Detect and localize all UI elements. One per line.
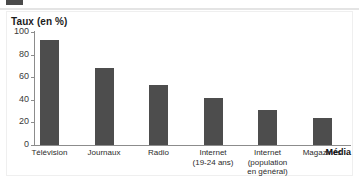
x-axis-category-label: Journaux (74, 148, 134, 158)
y-axis-tick-label: 80 (5, 50, 29, 59)
plot-area: 020406080100TélévisionJournauxRadioInter… (0, 0, 359, 179)
y-axis-line (34, 31, 35, 146)
x-axis-category-label: Internet (population en général) (238, 148, 298, 177)
y-axis-tick-label: 100 (5, 27, 29, 36)
y-axis-tick-mark (31, 55, 34, 56)
x-axis-category-label: Internet (19-24 ans) (183, 148, 243, 167)
y-axis-tick-mark (31, 77, 34, 78)
x-axis-line (34, 145, 351, 146)
x-axis-category-label: Télévision (20, 148, 80, 158)
y-axis-tick-mark (31, 32, 34, 33)
x-axis-category-label: Radio (129, 148, 189, 158)
bar (313, 118, 332, 145)
bar (149, 85, 168, 145)
bar (204, 98, 223, 145)
y-axis-tick-mark (31, 100, 34, 101)
y-axis-tick-label: 40 (5, 95, 29, 104)
bar (95, 68, 114, 145)
bar (258, 110, 277, 145)
y-axis-tick-mark (31, 145, 34, 146)
y-axis-tick-label: 60 (5, 72, 29, 81)
x-axis-title: Média (325, 147, 351, 157)
chart-screenshot: Taux (en %) 020406080100TélévisionJourna… (0, 0, 359, 179)
y-axis-tick-mark (31, 122, 34, 123)
y-axis-tick-label: 20 (5, 117, 29, 126)
bar (40, 40, 59, 145)
